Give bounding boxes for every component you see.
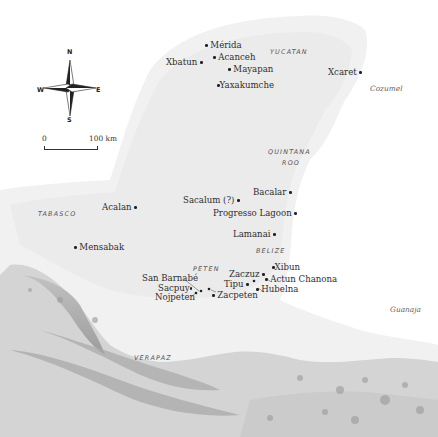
leader-lines — [0, 0, 438, 437]
map: N S E W 0 100 km YUCATAN QUINTANA ROO TA… — [0, 0, 438, 437]
